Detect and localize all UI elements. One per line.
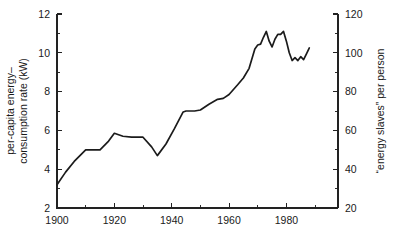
y-left-tick-label: 4 bbox=[44, 163, 50, 175]
y-left-tick-label: 6 bbox=[44, 124, 50, 136]
y-left-tick-label: 8 bbox=[44, 85, 50, 97]
data-series-group bbox=[57, 31, 309, 184]
y-right-tick-label: 120 bbox=[345, 8, 363, 20]
chart-figure: 19001920194019601980 24681012 2040608010… bbox=[0, 0, 395, 239]
y-axis-right-tick-labels: 20406080100120 bbox=[345, 8, 363, 214]
x-tick-label: 1960 bbox=[217, 214, 241, 226]
y-right-tick-label: 80 bbox=[345, 85, 357, 97]
y-right-tick-label: 20 bbox=[345, 202, 357, 214]
y-axis-left-title: per-capita energy– consumption rate (kW) bbox=[4, 58, 29, 164]
y-right-tick-label: 100 bbox=[345, 47, 363, 59]
energy-consumption-line-chart: 19001920194019601980 24681012 2040608010… bbox=[0, 0, 395, 239]
y-axis-right-title: “energy slaves” per person bbox=[374, 48, 386, 173]
x-axis-tick-labels: 19001920194019601980 bbox=[45, 214, 298, 226]
y-right-tick-label: 40 bbox=[345, 163, 357, 175]
x-tick-label: 1920 bbox=[103, 214, 127, 226]
x-tick-label: 1900 bbox=[45, 214, 69, 226]
y-left-tick-label: 2 bbox=[44, 202, 50, 214]
x-tick-label: 1980 bbox=[275, 214, 299, 226]
y-left-tick-label: 10 bbox=[38, 47, 50, 59]
y-axis-left-title-line2: consumption rate (kW) bbox=[17, 58, 29, 164]
x-axis-ticks bbox=[57, 203, 315, 208]
data-line-energy-consumption bbox=[57, 31, 309, 184]
y-axis-left-tick-labels: 24681012 bbox=[38, 8, 50, 214]
y-axis-right-title-text: “energy slaves” per person bbox=[374, 48, 386, 173]
y-left-tick-label: 12 bbox=[38, 8, 50, 20]
x-tick-label: 1940 bbox=[160, 214, 184, 226]
y-right-tick-label: 60 bbox=[345, 124, 357, 136]
y-axis-right-ticks bbox=[333, 14, 338, 208]
y-axis-left-title-line1: per-capita energy– bbox=[4, 67, 16, 155]
